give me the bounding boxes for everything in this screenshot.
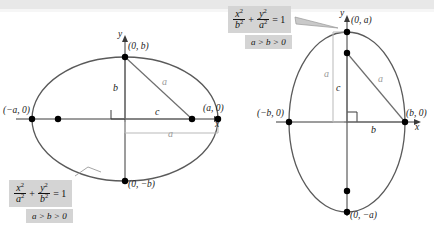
left-bracket-a-label: a [168, 128, 173, 139]
left-equation-equals: = 1 [52, 188, 67, 199]
top-band [0, 0, 434, 9]
top-band-shadow [0, 9, 434, 12]
right-focus-2-point [344, 188, 350, 194]
left-vertex-left-label: (−a, 0) [3, 105, 30, 115]
right-vertex-top-label: (0, a) [351, 15, 372, 25]
left-equation-box: x2 a2 + y2 b2 = 1 [9, 180, 72, 207]
right-equation: x2 b2 + y2 a2 = 1 [233, 9, 286, 30]
right-equation-x-fraction: x2 b2 [233, 9, 245, 30]
right-segment-b-label: b [371, 124, 376, 135]
left-vertex-top-point [122, 54, 128, 60]
right-segment-a-label: a [378, 73, 383, 84]
right-bracket-a-label: a [324, 68, 329, 79]
left-axes [16, 35, 221, 178]
left-equation-plus: + [28, 188, 36, 199]
right-vertex-left-point [286, 119, 292, 125]
left-vertex-left-point [29, 116, 35, 122]
right-vertex-top-point [344, 29, 350, 35]
right-vertex-left-label: (−b, 0) [257, 108, 284, 118]
right-equation-plus: + [247, 14, 255, 25]
right-equation-x-denominator: b2 [233, 20, 245, 30]
left-equation: x2 a2 + y2 b2 = 1 [14, 183, 67, 204]
left-equation-x-denominator: a2 [14, 194, 26, 204]
left-equation-y-fraction: y2 b2 [38, 183, 50, 204]
left-vertex-right-label: (a, 0) [203, 103, 224, 113]
left-y-axis-label: y [118, 29, 122, 39]
left-inequality-box: a > b > 0 [26, 209, 73, 223]
right-callout-leader [295, 17, 338, 28]
left-x-axis-label: x [215, 119, 219, 129]
left-focus-1-point [55, 116, 61, 122]
left-segment-c-label: c [155, 106, 159, 117]
right-inequality-box: a > b > 0 [245, 35, 292, 49]
right-semi-major-bracket [333, 32, 344, 122]
left-vertex-top-label: (0, b) [128, 41, 149, 51]
right-equation-box: x2 b2 + y2 a2 = 1 [228, 6, 291, 33]
left-equation-y-denominator: b2 [38, 194, 50, 204]
right-y-axis-label: y [340, 8, 344, 18]
right-segment-c-label: c [336, 82, 340, 93]
right-equation-y-fraction: y2 a2 [257, 9, 269, 30]
left-focus-2-point [189, 116, 195, 122]
right-equation-equals: = 1 [271, 14, 286, 25]
left-equation-x-fraction: x2 a2 [14, 183, 26, 204]
right-vertex-right-label: (b, 0) [406, 108, 427, 118]
left-right-angle-marker [111, 110, 125, 119]
right-right-angle-marker [347, 112, 357, 122]
right-x-axis-label: x [415, 122, 419, 132]
left-segment-b-label: b [113, 82, 118, 93]
left-segment-a-label: a [162, 76, 167, 87]
left-vertex-bottom-label: (0, −b) [128, 179, 155, 189]
right-y-axis-arrow [344, 15, 350, 22]
right-vertex-right-point [402, 119, 408, 125]
right-focus-1-point [344, 50, 350, 56]
right-equation-y-denominator: a2 [257, 20, 269, 30]
left-callout-leader [75, 167, 101, 176]
ellipse-figure: y x (0, b) (0, −b) (−a, 0) (a, 0) b c a … [0, 0, 434, 231]
right-vertex-bottom-label: (0, −a) [350, 210, 377, 220]
